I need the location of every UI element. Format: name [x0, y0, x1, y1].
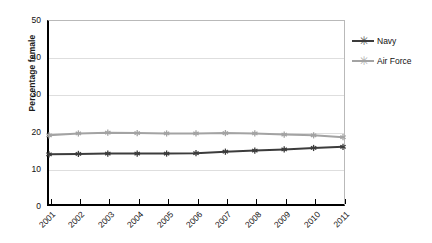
series-air-force [46, 130, 345, 141]
chart-legend: ✳Navy✳Air Force [352, 33, 430, 73]
chart-figure: Percentage female 01020304050 2001200220… [0, 0, 432, 243]
legend-marker: ✳ [352, 55, 374, 67]
legend-label: Navy [377, 36, 396, 46]
legend-item: ✳Air Force [352, 53, 430, 69]
asterisk-icon: ✳ [358, 55, 369, 67]
series-navy [46, 144, 345, 158]
legend-marker: ✳ [352, 35, 374, 47]
legend-item: ✳Navy [352, 33, 430, 49]
legend-label: Air Force [377, 56, 411, 66]
asterisk-icon: ✳ [358, 35, 369, 47]
